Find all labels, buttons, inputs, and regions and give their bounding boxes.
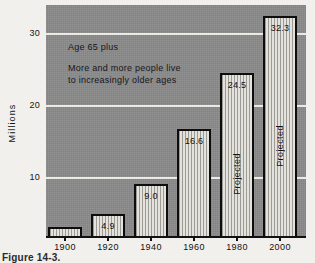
figure-caption: Figure 14-3. bbox=[2, 252, 61, 263]
x-tick-label-1960: 1960 bbox=[172, 242, 216, 252]
x-tick-mark-1960 bbox=[193, 237, 195, 241]
x-axis-line bbox=[46, 236, 306, 238]
y-tick-label-10: 10 bbox=[10, 172, 40, 182]
x-tick-label-1980: 1980 bbox=[215, 242, 259, 252]
x-tick-mark-1940 bbox=[150, 237, 152, 241]
x-tick-mark-1920 bbox=[107, 237, 109, 241]
x-tick-label-2000: 2000 bbox=[258, 242, 302, 252]
y-tick-label-30: 30 bbox=[10, 28, 40, 38]
x-tick-mark-2000 bbox=[279, 237, 281, 241]
x-tick-label-1900: 1900 bbox=[43, 242, 87, 252]
x-tick-label-1920: 1920 bbox=[86, 242, 130, 252]
x-tick-mark-1980 bbox=[236, 237, 238, 241]
y-axis-title: Millions bbox=[7, 93, 17, 153]
x-tick-mark-1900 bbox=[64, 237, 66, 241]
x-tick-label-1940: 1940 bbox=[129, 242, 173, 252]
